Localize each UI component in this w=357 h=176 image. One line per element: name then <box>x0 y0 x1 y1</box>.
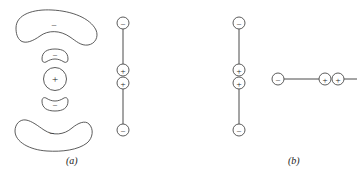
chain-node-plus-upper-sign: + <box>120 66 125 76</box>
top-outer-lobe-sign: – <box>51 19 57 29</box>
chain-node-plus-upper-sign: + <box>236 66 241 76</box>
top-outer-lobe <box>16 10 97 45</box>
charge-lobe-diagram: – – + – – <box>15 10 97 151</box>
center-lobe-sign: + <box>52 73 58 85</box>
lower-inner-lobe-sign: – <box>52 100 58 109</box>
chain-node-plus-second-sign: + <box>335 75 340 85</box>
chain-node-plus-lower-sign: + <box>236 79 241 89</box>
chain-node-plus-lower-sign: + <box>120 79 125 89</box>
vertical-charge-chain-b: – + + – <box>233 17 245 136</box>
panel-label-a: (a) <box>66 155 78 166</box>
chain-node-plus-first-sign: + <box>322 75 327 85</box>
figure-canvas: – – + – – – + + – <box>0 0 357 176</box>
bottom-outer-lobe-sign: – <box>49 127 55 137</box>
horizontal-charge-chain-b: – + + <box>272 73 357 85</box>
figure-root: – – + – – – + + – <box>0 0 357 176</box>
panel-label-b: (b) <box>288 155 300 166</box>
vertical-charge-chain-a: – + + – <box>117 17 129 136</box>
upper-inner-lobe-sign: – <box>52 50 58 59</box>
